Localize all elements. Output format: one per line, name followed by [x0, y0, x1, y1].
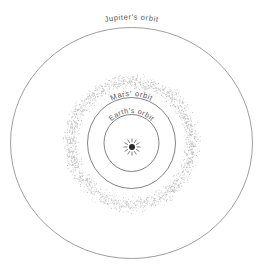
- sun-ray: [128, 151, 130, 154]
- label-earth-orbit: Earth's orbit: [107, 106, 157, 123]
- sun-ray: [125, 143, 128, 145]
- sun-ray: [134, 151, 136, 154]
- sun-ray: [136, 149, 139, 151]
- sun-ray: [134, 140, 136, 143]
- sun-core: [129, 144, 135, 150]
- label-jupiter-orbit: Jupiter's orbit: [104, 12, 160, 24]
- sun-ray: [136, 143, 139, 145]
- orbit-earth: [104, 115, 159, 172]
- sun-ray: [125, 149, 128, 151]
- solar-system-diagram: Jupiter's orbit Mars' orbit Earth's orbi…: [0, 0, 267, 274]
- diagram-canvas: Jupiter's orbit Mars' orbit Earth's orbi…: [0, 0, 267, 274]
- sun-ray: [128, 140, 130, 143]
- sun-symbol: [123, 138, 140, 155]
- label-mars-orbit: Mars' orbit: [109, 89, 155, 103]
- orbit-jupiter: [11, 28, 253, 259]
